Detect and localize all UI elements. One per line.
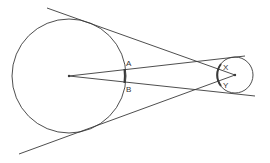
upper-tangent-line — [47, 8, 235, 75]
arc-xy — [217, 64, 221, 86]
label-b: B — [126, 85, 131, 94]
small-circle-center — [234, 74, 236, 76]
label-x: X — [223, 63, 229, 72]
label-a: A — [126, 59, 132, 68]
label-y: Y — [223, 81, 229, 90]
diagram-canvas: A B X Y — [0, 0, 270, 163]
large-circle-center — [68, 75, 70, 77]
